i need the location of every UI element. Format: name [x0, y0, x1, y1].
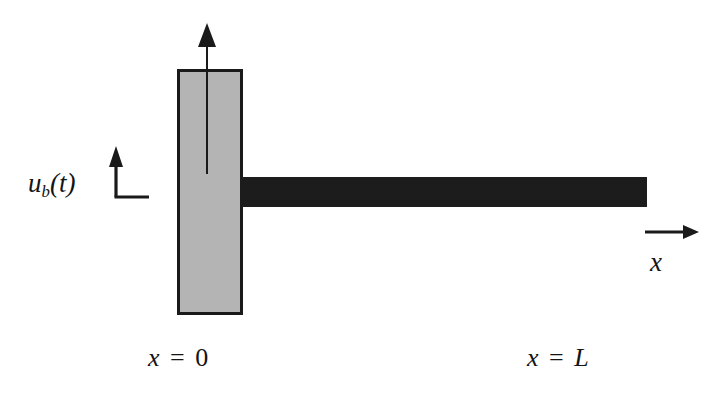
- x-axis-arrow-head: [683, 225, 699, 239]
- left-boundary-variable: x: [148, 343, 162, 372]
- base-displacement-variable: u: [28, 168, 42, 198]
- diagram-svg: [0, 0, 727, 398]
- base-displacement-close-paren: ): [66, 168, 75, 198]
- x-axis-label: x: [650, 249, 662, 276]
- diagram-canvas: ub(t) x x = 0 x = L: [0, 0, 727, 398]
- beam-grain: [240, 177, 647, 207]
- base-displacement-label: ub(t): [28, 170, 75, 200]
- right-boundary-equals: =: [549, 343, 566, 372]
- left-boundary-label: x = 0: [148, 345, 210, 371]
- base-block-grain: [181, 73, 239, 311]
- base-motion-arrow-head: [198, 23, 216, 47]
- right-boundary-label: x = L: [527, 345, 591, 371]
- displacement-indicator-arrow-head: [109, 146, 123, 167]
- left-boundary-equals: =: [170, 343, 187, 372]
- base-displacement-open-paren: (: [50, 168, 59, 198]
- left-boundary-value: 0: [195, 343, 210, 372]
- right-boundary-variable: x: [527, 343, 541, 372]
- right-boundary-value: L: [574, 343, 590, 372]
- base-displacement-subscript: b: [42, 182, 50, 201]
